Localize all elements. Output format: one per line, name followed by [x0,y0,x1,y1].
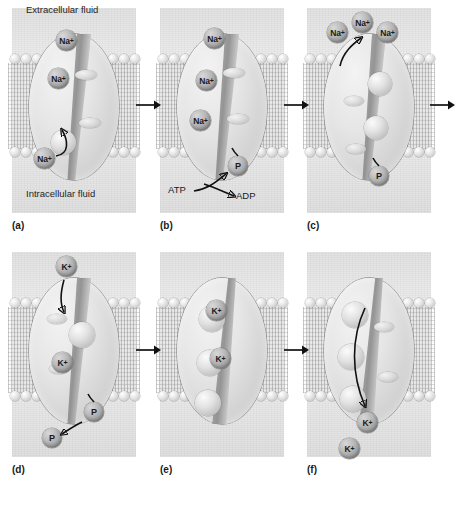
panel-label-f: (f) [307,464,317,475]
atp-label: ATP [168,184,186,195]
arrow-a-to-b [136,99,162,111]
sodium-exit-arrow [307,8,431,213]
binding-site-lobe-3 [195,390,221,416]
sodium-potassium-pump-figure: Extracellular fluid Intracellular fluid … [0,0,455,506]
panel-d: K+ K+ P P (d) [12,252,136,457]
potassium-entry-arrow [12,252,136,457]
panel-c: Na+ Na+ Na+ P (c) [307,8,431,213]
panel-label-a: (a) [12,220,24,231]
panel-a: Extracellular fluid Intracellular fluid … [12,8,136,213]
arrow-e-to-f [284,344,310,356]
potassium-exit-arrow [307,252,431,457]
adp-label: ADP [236,190,256,201]
potassium-ion-bound-1: K+ [206,300,227,321]
panel-b: Na+ Na+ Na+ P ATP ADP (b) [160,8,284,213]
arrow-b-to-c [284,99,310,111]
panel-label-e: (e) [160,464,172,475]
panel-f: K+ K+ (f) [307,252,431,457]
atp-hydrolysis-arrows [160,8,284,213]
potassium-ion-bound-2: K+ [210,348,231,369]
arrow-c-to-d [430,99,455,111]
panel-e: K+ K+ (e) [160,252,284,457]
panel-label-c: (c) [307,220,319,231]
sodium-entry-arrow [12,8,136,213]
panel-label-d: (d) [12,464,25,475]
arrow-d-to-e [136,344,162,356]
panel-label-b: (b) [160,220,173,231]
